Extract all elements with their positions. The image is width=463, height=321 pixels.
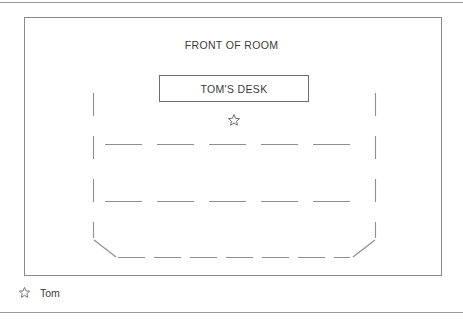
front-of-room-label: FRONT OF ROOM xyxy=(0,39,463,51)
legend-label: Tom xyxy=(40,287,60,299)
star-icon xyxy=(18,286,31,299)
legend: Tom xyxy=(18,286,60,299)
room-frame xyxy=(24,17,442,276)
page-top-rule xyxy=(0,2,463,3)
teachers-desk-label: TOM'S DESK xyxy=(200,83,267,95)
star-icon xyxy=(227,113,241,127)
page-bottom-rule xyxy=(0,312,463,313)
teachers-desk: TOM'S DESK xyxy=(159,75,309,102)
